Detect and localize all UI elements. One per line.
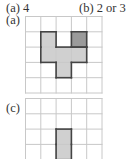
figure-a-label: (a) xyxy=(6,14,20,26)
figure-a-grid xyxy=(25,16,103,94)
shaded-cell xyxy=(56,62,71,77)
figure-c-label: (c) xyxy=(6,102,20,114)
shaded-cell xyxy=(41,32,56,47)
shaded-cell xyxy=(56,129,71,144)
shaded-cell xyxy=(56,47,71,62)
figure-c-grid xyxy=(25,98,103,159)
answer-b: (b) 2 or 3 xyxy=(79,2,126,14)
dark-shaded-cell xyxy=(71,32,86,47)
shaded-cell xyxy=(41,47,56,62)
shaded-cell xyxy=(71,47,86,62)
shaded-cell xyxy=(56,144,71,159)
